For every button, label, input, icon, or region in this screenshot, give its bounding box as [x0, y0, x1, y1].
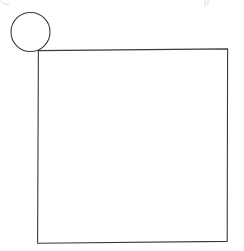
drawing-canvas: [0, 0, 244, 251]
drawing-svg: [0, 0, 244, 251]
canvas-background: [0, 0, 244, 251]
